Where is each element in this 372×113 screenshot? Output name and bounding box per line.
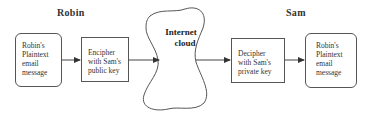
node-line: with Sam's xyxy=(238,58,284,67)
sender-label: Robin xyxy=(57,7,85,18)
internet-cloud-label: Internet cloud xyxy=(160,27,202,49)
node-line: message xyxy=(316,68,356,77)
node-encipher: Encipher with Sam's public key xyxy=(81,37,129,82)
node-line: message xyxy=(22,68,61,77)
node-line: with Sam's xyxy=(88,57,128,66)
node-line: public key xyxy=(88,66,128,75)
node-line: Robin's xyxy=(316,41,356,50)
node-line: email xyxy=(316,59,356,68)
node-plaintext-dest: Robin's Plaintext email message xyxy=(305,33,357,88)
internet-cloud-shape xyxy=(143,8,206,110)
node-line: Robin's xyxy=(22,41,61,50)
node-line: email xyxy=(22,59,61,68)
receiver-label: Sam xyxy=(286,7,306,18)
node-plaintext-source: Robin's Plaintext email message xyxy=(15,33,62,87)
node-line: private key xyxy=(238,67,284,76)
node-line: Decipher xyxy=(238,49,284,58)
node-decipher: Decipher with Sam's private key xyxy=(231,38,285,83)
cloud-line: Internet xyxy=(160,27,202,38)
cloud-line: cloud xyxy=(160,38,202,49)
node-line: Encipher xyxy=(88,48,128,57)
node-line: Plaintext xyxy=(316,50,356,59)
node-line: Plaintext xyxy=(22,50,61,59)
